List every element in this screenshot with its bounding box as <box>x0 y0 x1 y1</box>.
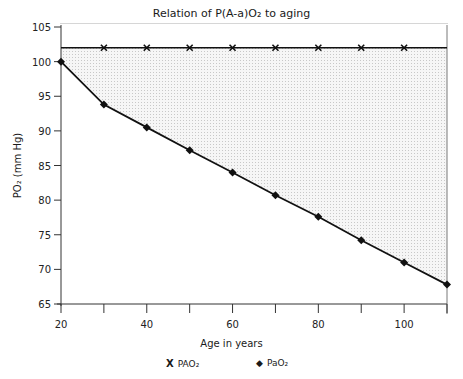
x-axis-label: Age in years <box>0 338 463 349</box>
legend-label: PaO₂ <box>267 358 288 368</box>
y-axis-label: PO₂ (mm Hg) <box>12 121 23 211</box>
svg-text:60: 60 <box>226 319 239 330</box>
svg-text:75: 75 <box>38 230 51 241</box>
legend-label: PAO₂ <box>178 359 200 369</box>
svg-text:70: 70 <box>38 264 51 275</box>
svg-text:85: 85 <box>38 161 51 172</box>
svg-text:65: 65 <box>38 299 51 310</box>
svg-text:105: 105 <box>32 22 51 33</box>
svg-text:40: 40 <box>140 319 153 330</box>
chart-plot-area: 6570758085909510010520406080100 <box>0 0 463 379</box>
x-marker-icon: X <box>166 358 174 369</box>
diamond-marker-icon: ◆ <box>256 358 263 368</box>
svg-text:80: 80 <box>312 319 325 330</box>
svg-text:80: 80 <box>38 195 51 206</box>
svg-text:100: 100 <box>32 57 51 68</box>
svg-text:100: 100 <box>395 319 414 330</box>
legend-item-pao2-arterial: ◆ PaO₂ <box>256 358 288 368</box>
svg-text:20: 20 <box>55 319 68 330</box>
legend-item-pao2-alveolar: X PAO₂ <box>166 358 199 369</box>
svg-text:95: 95 <box>38 91 51 102</box>
svg-text:90: 90 <box>38 126 51 137</box>
gradient-shaded-area <box>61 48 447 285</box>
